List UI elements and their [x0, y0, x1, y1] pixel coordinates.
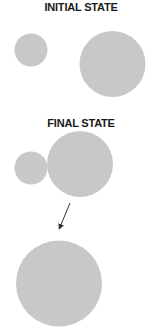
final-large-circle — [47, 131, 113, 197]
arrow-icon — [60, 203, 70, 227]
diagram-canvas — [0, 0, 156, 329]
final-merged-circle — [16, 241, 102, 327]
initial-small-circle — [15, 34, 48, 67]
initial-large-circle — [80, 31, 146, 97]
final-small-circle — [15, 152, 48, 185]
